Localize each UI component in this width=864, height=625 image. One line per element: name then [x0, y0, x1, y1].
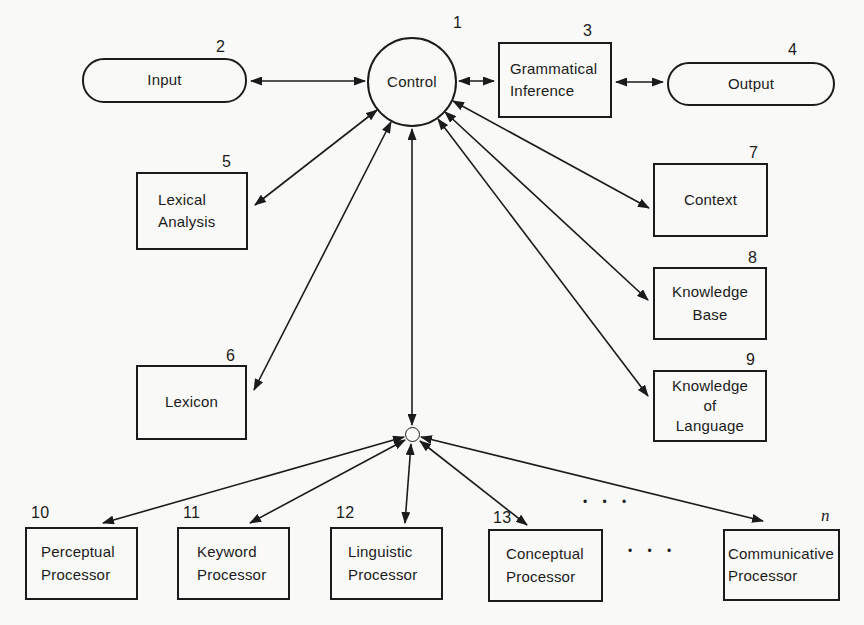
node-output: Output	[667, 62, 835, 106]
node-hub-junction	[405, 427, 420, 442]
node-context-label: Context	[684, 189, 737, 212]
edge-hub-keyword-processor	[250, 440, 405, 523]
node-number-13: 13	[493, 509, 511, 527]
node-conceptual-processor: Conceptual Processor	[488, 529, 603, 602]
ellipsis-upper: • • •	[583, 495, 632, 509]
edge-hub-linguistic-processor	[405, 444, 411, 523]
node-number-9: 9	[746, 351, 755, 369]
edge-control-lexical-analysis	[255, 110, 377, 205]
node-number-n: n	[821, 506, 830, 526]
node-control-label: Control	[387, 71, 437, 94]
node-control: Control	[367, 37, 457, 127]
node-grammatical-inference: Grammatical Inference	[498, 42, 612, 118]
node-perceptual-processor: Perceptual Processor	[25, 527, 138, 600]
node-knowledge-base: Knowledge Base	[653, 267, 767, 340]
node-number-8: 8	[748, 249, 757, 267]
node-knowledge-of-language: Knowledge of Language	[653, 370, 767, 442]
edge-control-knowledge-base	[445, 112, 648, 300]
node-number-7: 7	[749, 144, 758, 162]
node-lexicon-label: Lexicon	[165, 391, 218, 414]
node-input-label: Input	[147, 69, 181, 92]
node-lexical-analysis: Lexical Analysis	[136, 172, 248, 250]
ellipsis-middle: • • •	[628, 544, 677, 558]
node-number-11: 11	[183, 504, 200, 522]
node-number-12: 12	[336, 504, 354, 522]
node-lexicon: Lexicon	[136, 365, 247, 440]
node-output-label: Output	[728, 73, 774, 96]
edge-control-knowledge-of-language	[438, 119, 648, 396]
node-communicative-processor: Communicative Processor	[723, 529, 840, 601]
node-number-3: 3	[583, 22, 592, 40]
node-context: Context	[653, 163, 768, 237]
node-keyword-processor: Keyword Processor	[177, 527, 290, 600]
node-number-4: 4	[788, 41, 797, 59]
node-input: Input	[82, 58, 247, 103]
node-number-5: 5	[222, 153, 231, 171]
edge-hub-perceptual-processor	[103, 437, 404, 523]
node-number-1: 1	[453, 14, 462, 32]
node-number-2: 2	[216, 38, 225, 56]
node-linguistic-processor: Linguistic Processor	[330, 527, 443, 600]
edge-control-lexicon	[254, 122, 391, 390]
node-number-6: 6	[226, 347, 235, 365]
diagram-canvas: Control Input Grammatical Inference Outp…	[0, 0, 864, 625]
node-number-10: 10	[31, 504, 49, 522]
